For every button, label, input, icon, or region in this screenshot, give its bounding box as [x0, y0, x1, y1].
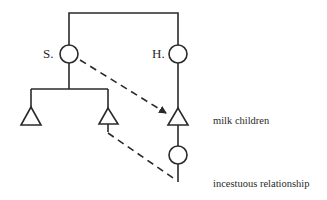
s-child-2-triangle	[99, 108, 118, 124]
node-h-label: H.	[152, 46, 165, 61]
h-child-male-triangle	[168, 108, 188, 125]
node-s-label: S.	[43, 46, 53, 61]
h-child-female-circle	[169, 146, 187, 164]
s-child-1-triangle	[21, 107, 41, 125]
kinship-diagram: S. H. milk children incestuous relations…	[0, 0, 327, 200]
sibling-link-line	[69, 13, 178, 45]
node-s-circle	[60, 45, 78, 63]
milk-children-label: milk children	[213, 115, 270, 126]
milk-nursing-arrow	[80, 60, 166, 113]
incestuous-relationship-line	[108, 133, 176, 180]
node-h-circle	[169, 45, 187, 63]
incestuous-relationship-label: incestuous relationship	[213, 178, 310, 189]
